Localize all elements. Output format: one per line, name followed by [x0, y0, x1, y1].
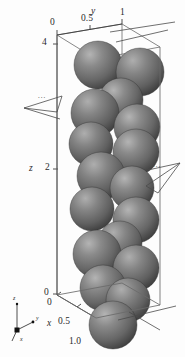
z-tick-4: 4	[42, 38, 47, 48]
top-plane-marker	[110, 22, 175, 42]
y-tick-0: 0	[50, 18, 55, 28]
triad-z-label: z	[13, 295, 15, 301]
triad-y-label: y	[36, 315, 39, 321]
atom-spheres	[69, 41, 164, 349]
x-tick-1-0: 1.0	[69, 337, 81, 347]
y-tick-1: 1	[120, 8, 125, 18]
crystal-structure-svg	[0, 0, 185, 357]
x-tick-0: 0	[47, 298, 52, 308]
left-ellipsis: ...	[38, 92, 46, 100]
z-axis-name: z	[29, 164, 33, 174]
x-axis-name: x	[47, 319, 51, 329]
y-tick-0-5: 0.5	[81, 14, 93, 24]
orientation-triad	[12, 303, 34, 341]
z-tick-2: 2	[45, 163, 50, 173]
x-tick-0-5: 0.5	[58, 317, 70, 327]
figure-canvas: y 0 0.5 1 z 4 2 0 x 0 0.5 1.0 ... ... z …	[0, 0, 185, 357]
atom-sphere	[70, 187, 114, 231]
atom-sphere	[89, 301, 137, 349]
triad-x-label: x	[20, 336, 23, 342]
right-ellipsis: ...	[153, 161, 161, 169]
